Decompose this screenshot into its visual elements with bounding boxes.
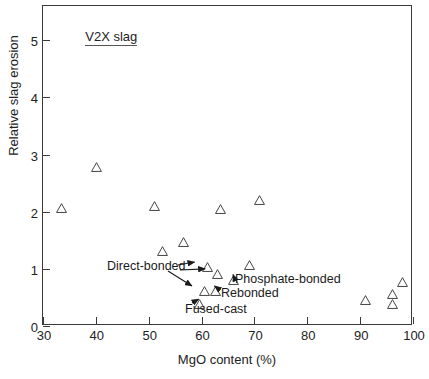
y-tick-label: 1 <box>31 262 38 277</box>
y-tick: 1 <box>43 269 50 270</box>
y-tick-label: 4 <box>31 91 38 106</box>
x-tick-label: 70 <box>248 328 262 343</box>
chart-figure: Relative slag erosion MgO content (%) 01… <box>0 0 429 379</box>
y-axis-title: Relative slag erosion <box>6 21 21 171</box>
y-tick: 3 <box>43 155 50 156</box>
plot-area: 012345 30405060708090100 V2X slag <box>42 5 412 325</box>
annotation-rebonded: Rebonded <box>221 286 279 300</box>
x-tick: 80 <box>307 317 308 324</box>
x-tick: 30 <box>43 317 44 324</box>
x-tick: 70 <box>254 317 255 324</box>
x-axis-title: MgO content (%) <box>42 352 412 367</box>
x-tick: 40 <box>96 317 97 324</box>
x-tick-label: 100 <box>403 328 425 343</box>
x-tick-label: 60 <box>195 328 209 343</box>
y-tick: 5 <box>43 40 50 41</box>
annotation-phosphate-bonded: Phosphate-bonded <box>235 272 341 286</box>
x-tick: 90 <box>360 317 361 324</box>
y-tick: 0 <box>43 326 50 327</box>
x-tick: 50 <box>149 317 150 324</box>
x-tick-label: 50 <box>142 328 156 343</box>
x-tick-label: 40 <box>90 328 104 343</box>
y-tick-label: 2 <box>31 205 38 220</box>
x-tick: 60 <box>202 317 203 324</box>
series-title-label: V2X slag <box>85 29 137 46</box>
y-tick: 4 <box>43 97 50 98</box>
annotation-direct-bonded: Direct-bonded <box>107 259 186 273</box>
annotation-fused-cast: Fused-cast <box>185 302 247 316</box>
x-tick-label: 30 <box>37 328 51 343</box>
x-tick-label: 90 <box>354 328 368 343</box>
y-tick-label: 3 <box>31 148 38 163</box>
y-tick-label: 5 <box>31 34 38 49</box>
y-tick: 2 <box>43 212 50 213</box>
x-tick: 100 <box>413 317 414 324</box>
x-tick-label: 80 <box>301 328 315 343</box>
